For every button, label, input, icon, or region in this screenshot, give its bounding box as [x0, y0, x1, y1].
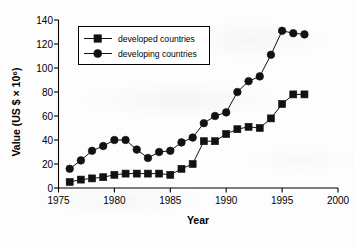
square-marker-icon	[66, 179, 73, 186]
square-marker-icon	[200, 138, 207, 145]
square-marker-icon	[77, 176, 84, 183]
circle-marker-icon	[267, 51, 275, 59]
circle-marker-icon	[66, 165, 74, 173]
series-line	[70, 94, 305, 182]
x-axis-title: Year	[187, 214, 209, 226]
y-tick-labels: 140 120 100 80 60 40 20 0	[36, 15, 53, 194]
square-marker-icon	[167, 171, 174, 178]
legend-label: developed countries	[118, 34, 195, 44]
square-marker-icon	[279, 101, 286, 108]
circle-marker-icon	[155, 148, 163, 156]
circle-marker-icon	[211, 112, 219, 120]
circle-marker-icon	[200, 119, 208, 127]
square-marker-icon	[133, 170, 140, 177]
circle-marker-icon	[133, 146, 141, 154]
x-tick-label: 2000	[327, 195, 350, 206]
x-tick-labels: 1975 1980 1985 1990 1995 2000	[47, 195, 349, 206]
square-marker-icon	[290, 91, 297, 98]
square-marker-icon	[111, 171, 118, 178]
y-axis-ticks	[54, 20, 59, 188]
legend-box	[79, 27, 210, 65]
square-marker-icon	[144, 170, 151, 177]
circle-marker-icon	[94, 50, 102, 58]
circle-marker-icon	[222, 109, 230, 117]
square-marker-icon	[256, 125, 263, 132]
circle-marker-icon	[167, 147, 175, 155]
y-tick-label: 20	[42, 159, 54, 170]
x-tick-label: 1995	[271, 195, 294, 206]
series-square	[66, 91, 308, 186]
square-marker-icon	[100, 174, 107, 181]
square-marker-icon	[122, 170, 129, 177]
x-axis-ticks	[59, 188, 339, 193]
x-tick-label: 1975	[47, 195, 70, 206]
circle-marker-icon	[144, 154, 152, 162]
circle-marker-icon	[278, 27, 286, 35]
circle-marker-icon	[178, 139, 186, 147]
legend: developed countries developing countries	[79, 27, 210, 65]
y-tick-label: 140	[36, 15, 53, 26]
square-marker-icon	[189, 161, 196, 168]
square-marker-icon	[245, 123, 252, 130]
circle-marker-icon	[99, 142, 107, 150]
square-marker-icon	[178, 165, 185, 172]
circle-marker-icon	[88, 147, 96, 155]
square-marker-icon	[267, 115, 274, 122]
circle-marker-icon	[77, 157, 85, 165]
y-tick-label: 120	[36, 39, 53, 50]
figure-page: Value (US $ × 10⁶) 140 120 100 80 60 40 …	[0, 0, 354, 248]
circle-marker-icon	[256, 73, 264, 81]
square-marker-icon	[94, 35, 101, 42]
y-tick-label: 80	[42, 87, 54, 98]
x-tick-label: 1990	[215, 195, 238, 206]
square-marker-icon	[156, 170, 163, 177]
y-tick-label: 100	[36, 63, 53, 74]
y-axis-title: Value (US $ × 10⁶)	[10, 67, 22, 156]
legend-label: developing countries	[118, 49, 197, 59]
circle-marker-icon	[189, 134, 197, 142]
y-tick-label: 60	[42, 111, 54, 122]
y-tick-label: 40	[42, 135, 54, 146]
square-marker-icon	[89, 175, 96, 182]
square-marker-icon	[301, 91, 308, 98]
square-marker-icon	[223, 131, 230, 138]
circle-marker-icon	[289, 29, 297, 37]
circle-marker-icon	[111, 136, 119, 144]
circle-marker-icon	[234, 88, 242, 96]
square-marker-icon	[212, 138, 219, 145]
circle-marker-icon	[122, 136, 130, 144]
line-chart: Value (US $ × 10⁶) 140 120 100 80 60 40 …	[0, 0, 354, 248]
legend-item-developed: developed countries	[84, 34, 195, 44]
y-tick-label: 0	[47, 183, 53, 194]
circle-marker-icon	[301, 31, 309, 39]
x-tick-label: 1985	[159, 195, 182, 206]
circle-marker-icon	[245, 77, 253, 85]
square-marker-icon	[234, 126, 241, 133]
x-tick-label: 1980	[103, 195, 126, 206]
